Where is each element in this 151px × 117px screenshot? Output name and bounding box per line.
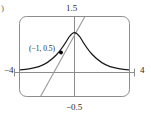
marked-point [59,51,63,55]
y-max-label: 1.5 [66,4,77,13]
graph-canvas [0,0,151,117]
y-min-label: −0.5 [66,103,82,112]
figure-corner-mark: ) [1,4,4,13]
x-max-label: 4 [140,66,145,75]
point-annotation-label: (−1, 0.5) [29,45,55,53]
x-min-label: −4 [4,66,14,75]
graph-figure: ) 1.5 −0.5 −4 4 (−1, 0.5) [0,0,151,117]
